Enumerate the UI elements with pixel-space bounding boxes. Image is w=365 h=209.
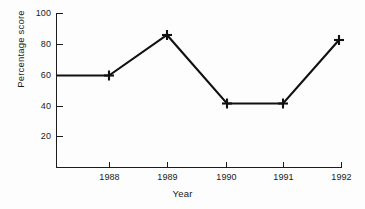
y-tick-label-40: 40 [22,101,51,111]
x-axis-title: Year [0,188,365,199]
x-tick-label-1991: 1991 [263,172,304,182]
y-tick-label-80: 80 [22,39,51,49]
x-tick-label-1988: 1988 [89,172,130,182]
line-chart: 100 80 60 40 20 1988 1989 1990 1991 1992… [0,0,365,209]
data-series-line [57,35,339,104]
y-tick-label-60: 60 [22,70,51,80]
y-tick-label-100: 100 [22,8,51,18]
x-tick-label-1992: 1992 [321,172,362,182]
y-tick-label-20: 20 [22,131,51,141]
x-tick-label-1989: 1989 [147,172,188,182]
y-axis-title: Percentage score [15,10,26,88]
x-tick-label-1990: 1990 [206,172,247,182]
y-axis-title-container: Percentage score [10,0,24,104]
